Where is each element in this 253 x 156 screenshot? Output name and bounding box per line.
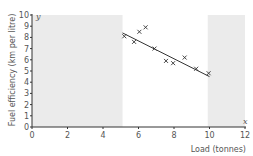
x-tick-label: 10 — [204, 131, 214, 140]
y-tick-label: 10 — [19, 11, 29, 20]
regression-line — [123, 33, 210, 77]
x-tick-label: 6 — [136, 131, 141, 140]
x-axis-ticks: 024681012 — [29, 127, 250, 140]
y-tick-label: 4 — [24, 78, 29, 87]
data-point-cross — [132, 40, 136, 44]
y-tick-label: 2 — [24, 101, 29, 110]
x-tick-label: 4 — [100, 131, 105, 140]
y-tick-label: 1 — [24, 112, 29, 121]
x-tick-label: 12 — [240, 131, 250, 140]
data-point-cross — [122, 34, 126, 38]
data-point-cross — [171, 61, 175, 65]
x-tick-label: 0 — [29, 131, 34, 140]
data-points — [122, 25, 210, 75]
extrapolation-shaded-regions — [32, 15, 245, 127]
x-tick-label: 8 — [171, 131, 176, 140]
data-point-cross — [183, 56, 187, 60]
scatter-chart: 012345678910 024681012 Fuel efficiency (… — [0, 0, 253, 156]
y-tick-label: 9 — [24, 22, 29, 31]
shaded-region-1 — [208, 15, 245, 127]
data-point-cross — [144, 25, 148, 29]
shaded-region-0 — [32, 15, 123, 127]
data-point-cross — [164, 59, 168, 63]
x-axis-title: Load (tonnes) — [191, 145, 246, 154]
y-tick-label: 5 — [24, 67, 29, 76]
y-tick-label: 6 — [24, 56, 29, 65]
y-tick-label: 7 — [24, 45, 29, 54]
x-tick-label: 2 — [65, 131, 70, 140]
y-tick-label: 3 — [24, 89, 29, 98]
y-axis-title: Fuel efficiency (km per litre) — [8, 14, 17, 127]
y-tick-label: 8 — [24, 33, 29, 42]
data-point-cross — [137, 30, 141, 34]
y-axis-ticks: 012345678910 — [19, 11, 32, 132]
y-tick-label: 0 — [24, 123, 29, 132]
x-variable-label: x — [243, 117, 248, 126]
y-variable-label: y — [35, 12, 41, 21]
